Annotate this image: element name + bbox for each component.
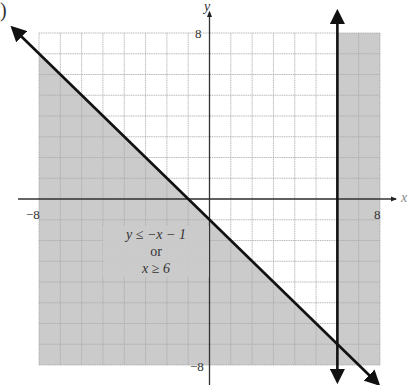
annotation-line-2: or bbox=[106, 243, 206, 260]
y-axis-label: y bbox=[204, 0, 210, 14]
inequality-plot bbox=[0, 0, 409, 385]
x-axis-label: x bbox=[401, 191, 407, 205]
x-min-tick-label: −8 bbox=[26, 208, 40, 221]
annotation-line-3: x ≥ 6 bbox=[106, 260, 206, 277]
annotation-line-1: y ≤ −x − 1 bbox=[106, 226, 206, 243]
x-max-tick-label: 8 bbox=[374, 208, 381, 221]
y-min-tick-label: −8 bbox=[190, 360, 204, 373]
y-max-tick-label: 8 bbox=[195, 27, 202, 40]
inequality-annotation: y ≤ −x − 1 or x ≥ 6 bbox=[103, 226, 209, 277]
